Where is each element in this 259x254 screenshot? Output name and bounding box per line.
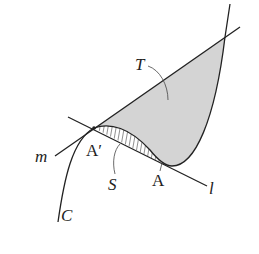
point-A-prime (92, 126, 96, 130)
label-A: A (152, 172, 164, 189)
leader-S (114, 144, 120, 174)
region-T (94, 37, 225, 166)
leader-A (160, 163, 162, 171)
label-S: S (108, 176, 117, 193)
label-T: T (135, 56, 144, 73)
label-C: C (61, 207, 72, 224)
diagram-canvas: T S A A′ m l C (0, 0, 259, 254)
diagram-svg (0, 0, 259, 254)
label-l: l (209, 180, 214, 197)
label-A-prime: A′ (86, 142, 102, 159)
label-m: m (35, 148, 47, 165)
